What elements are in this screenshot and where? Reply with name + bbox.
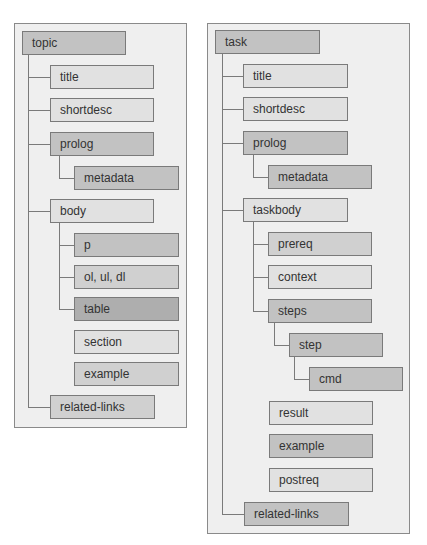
connector	[28, 77, 50, 78]
node-lists: ol, ul, dl	[74, 265, 179, 289]
prolog-branch-line	[253, 155, 254, 177]
node-example: example	[74, 362, 179, 386]
task-trunk-line	[222, 54, 223, 514]
node-shortdesc: shortdesc	[50, 98, 154, 122]
prolog-branch-line	[59, 156, 60, 178]
node-postreq: postreq	[269, 468, 373, 492]
connector	[28, 211, 50, 212]
node-prolog: prolog	[50, 132, 154, 156]
node-example: example	[269, 434, 373, 458]
node-task: task	[215, 30, 320, 54]
node-section: section	[74, 330, 179, 354]
node-related-links: related-links	[50, 395, 155, 419]
connector	[253, 277, 268, 278]
node-result: result	[269, 401, 373, 425]
topic-trunk-line	[28, 55, 29, 407]
node-title: title	[243, 64, 348, 88]
node-steps: steps	[268, 299, 372, 323]
node-context: context	[268, 265, 372, 289]
node-table: table	[74, 297, 179, 321]
connector	[28, 144, 50, 145]
node-p: p	[74, 233, 179, 257]
connector	[253, 177, 268, 178]
node-metadata: metadata	[268, 165, 372, 189]
node-title: title	[50, 65, 154, 89]
connector	[59, 245, 74, 246]
connector	[222, 109, 243, 110]
node-shortdesc: shortdesc	[243, 97, 348, 121]
connector	[253, 244, 268, 245]
node-prolog: prolog	[243, 131, 348, 155]
connector	[274, 345, 289, 346]
connector	[222, 514, 244, 515]
connector	[28, 407, 50, 408]
node-cmd: cmd	[309, 367, 403, 391]
node-step: step	[289, 333, 383, 357]
connector	[222, 143, 243, 144]
step-branch-line	[294, 357, 295, 379]
connector	[59, 178, 74, 179]
node-body: body	[50, 199, 154, 223]
node-taskbody: taskbody	[243, 198, 348, 222]
connector	[28, 110, 50, 111]
connector	[59, 309, 74, 310]
node-metadata: metadata	[74, 166, 179, 190]
body-branch-line	[59, 223, 60, 309]
connector	[222, 76, 243, 77]
taskbody-branch-line	[253, 222, 254, 311]
connector	[253, 311, 268, 312]
connector	[222, 210, 243, 211]
node-topic: topic	[22, 31, 126, 55]
node-prereq: prereq	[268, 232, 372, 256]
connector	[294, 379, 309, 380]
node-related-links: related-links	[244, 502, 349, 526]
connector	[59, 277, 74, 278]
steps-branch-line	[274, 323, 275, 345]
